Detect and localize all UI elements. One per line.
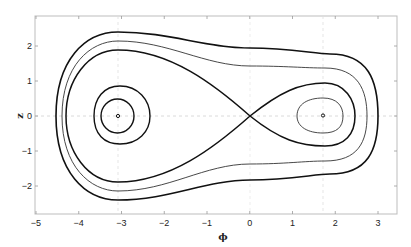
y-tick-label: −1 xyxy=(22,146,32,156)
x-tick-label: −1 xyxy=(202,218,212,228)
x-tick-label: 1 xyxy=(290,218,295,228)
x-tick-label: −3 xyxy=(116,218,126,228)
x-tick-label: −2 xyxy=(159,218,169,228)
y-tick-label: 1 xyxy=(27,76,32,86)
x-tick-label: 2 xyxy=(333,218,338,228)
x-tick-labels: −5 −4 −3 −2 −1 0 1 2 3 xyxy=(31,218,381,228)
x-axis-label: ϕ xyxy=(218,231,227,242)
phase-portrait-chart: −5 −4 −3 −2 −1 0 1 2 3 −2 −1 0 1 2 ϕ z xyxy=(0,0,411,247)
y-tick-label: 0 xyxy=(27,111,32,121)
x-tick-label: −5 xyxy=(31,218,41,228)
x-tick-label: −4 xyxy=(74,218,84,228)
y-axis-label: z xyxy=(14,113,25,119)
x-tick-label: 3 xyxy=(375,218,380,228)
y-tick-label: 2 xyxy=(27,41,32,51)
y-tick-label: −2 xyxy=(22,181,32,191)
x-tick-label: 0 xyxy=(247,218,252,228)
